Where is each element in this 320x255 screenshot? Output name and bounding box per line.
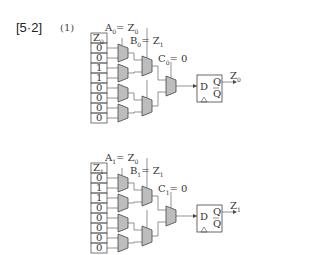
select-c-label-1: C1= 0 [158, 183, 187, 196]
mux-level1-1 [118, 174, 128, 252]
select-b-label-1: B1= Z1 [130, 165, 164, 178]
ff-q-label-1: Q [213, 206, 221, 217]
ff-qbar-label-1: Q [213, 218, 221, 229]
mux-level3-1 [166, 206, 176, 226]
ff-d-label-1: D [200, 211, 208, 222]
cell: 0 [96, 242, 102, 253]
output-label-1: Z1 [230, 200, 241, 213]
select-a-label-1: A1= Z0 [105, 152, 138, 165]
